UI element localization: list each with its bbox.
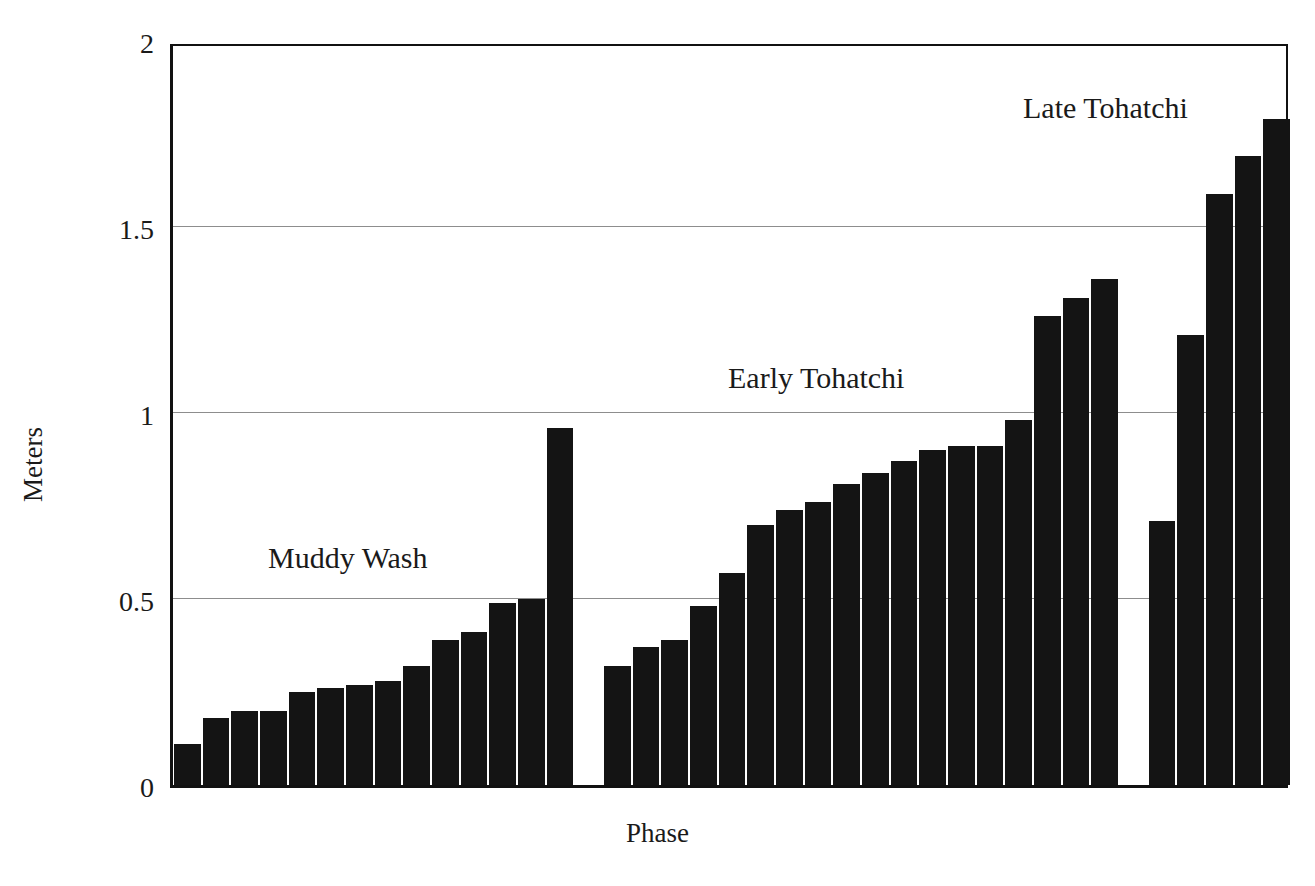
y-tick-label: 1 <box>28 400 154 432</box>
bar <box>231 711 257 785</box>
bar <box>1005 420 1031 785</box>
bar <box>919 450 945 785</box>
bar <box>1063 298 1089 785</box>
bar-chart: Meters 00.511.52 Muddy Wash Early Tohatc… <box>0 0 1315 886</box>
bar <box>719 573 745 785</box>
bar <box>1235 156 1261 785</box>
bar <box>375 681 401 785</box>
bar <box>633 647 659 785</box>
bar <box>203 718 229 785</box>
group-label-early-tohatchi: Early Tohatchi <box>728 361 904 395</box>
bar <box>1149 521 1175 785</box>
bar <box>317 688 343 785</box>
bar <box>661 640 687 785</box>
bar <box>1091 279 1117 785</box>
plot-area: Muddy Wash Early Tohatchi Late Tohatchi <box>170 44 1288 788</box>
bar <box>891 461 917 785</box>
bar <box>862 473 888 785</box>
group-label-late-tohatchi: Late Tohatchi <box>1023 91 1188 125</box>
bar <box>1263 119 1289 785</box>
bar <box>977 446 1003 785</box>
y-tick-label: 0 <box>28 772 154 804</box>
bar <box>403 666 429 785</box>
bar <box>747 525 773 785</box>
bar <box>289 692 315 785</box>
y-tick-label: 0.5 <box>28 586 154 618</box>
bar <box>518 599 544 785</box>
bar <box>461 632 487 785</box>
bar <box>1206 194 1232 785</box>
bar <box>174 744 200 785</box>
bar <box>690 606 716 785</box>
bar <box>604 666 630 785</box>
bar <box>547 428 573 785</box>
bar <box>1034 316 1060 785</box>
x-axis-title: Phase <box>0 818 1315 849</box>
y-tick-label: 1.5 <box>28 214 154 246</box>
bar <box>346 685 372 785</box>
y-tick-label: 2 <box>28 28 154 60</box>
bar <box>260 711 286 785</box>
bar <box>776 510 802 785</box>
group-label-muddy-wash: Muddy Wash <box>268 541 428 575</box>
bar <box>432 640 458 785</box>
bar <box>489 603 515 785</box>
bar <box>805 502 831 785</box>
bar <box>1177 335 1203 785</box>
bar <box>833 484 859 785</box>
bar-series <box>173 46 1286 785</box>
bar <box>948 446 974 785</box>
